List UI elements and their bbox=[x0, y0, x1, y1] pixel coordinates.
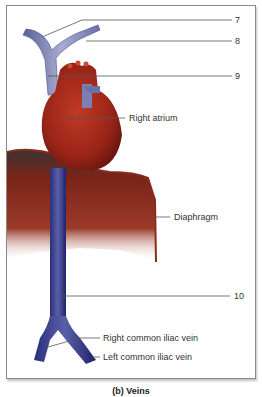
label-diaphragm: Diaphragm bbox=[174, 212, 218, 222]
label-9: 9 bbox=[235, 71, 240, 81]
label-left-common-iliac-vein: Left common iliac vein bbox=[103, 352, 192, 362]
label-right-atrium: Right atrium bbox=[129, 113, 178, 123]
label-8: 8 bbox=[235, 36, 240, 46]
label-10: 10 bbox=[234, 291, 244, 301]
label-7: 7 bbox=[235, 15, 240, 25]
label-right-common-iliac-vein: Right common iliac vein bbox=[103, 333, 198, 343]
figure-caption: (b) Veins bbox=[0, 386, 262, 396]
